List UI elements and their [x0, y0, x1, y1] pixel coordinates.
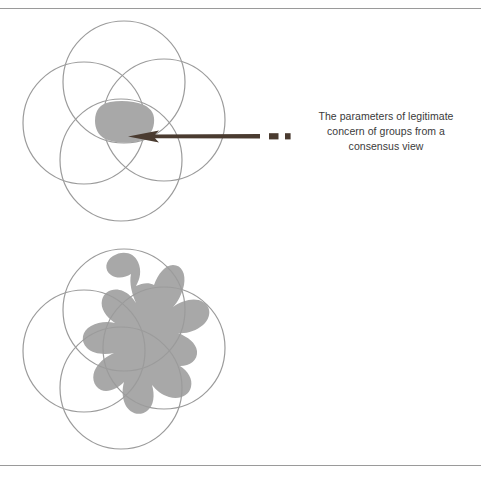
arrow-square-marker: [285, 133, 291, 139]
bottom-horizontal-rule: [0, 465, 481, 466]
diagram-panel-diversity-valued: The parameters of legitimate concern of …: [0, 238, 481, 463]
caption-consensus-view: The parameters of legitimate concern of …: [300, 109, 472, 154]
arrow-dash-marker: [269, 133, 279, 139]
shaded-union-blob: [83, 253, 210, 414]
pointer-arrow-consensus-view: [128, 122, 308, 150]
venn-diagram-diversity-valued: [18, 238, 268, 463]
figure-root: The parameters of legitimate concern of …: [0, 0, 481, 479]
top-horizontal-rule: [0, 8, 481, 9]
arrow-shaft-and-head: [128, 131, 260, 143]
diagram-panel-consensus-view: The parameters of legitimate concern of …: [0, 10, 481, 235]
